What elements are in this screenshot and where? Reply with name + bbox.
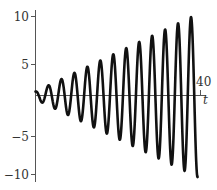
x-axis-label-t: t bbox=[203, 93, 208, 107]
y-tick-label-minus10: −10 bbox=[4, 168, 29, 182]
x-tick-label-40: 40 bbox=[196, 75, 211, 89]
data-series-curve bbox=[36, 17, 198, 177]
y-tick-label-minus5: −5 bbox=[11, 130, 29, 144]
y-tick-label-5: 5 bbox=[21, 58, 29, 72]
y-tick-label-10: 10 bbox=[14, 10, 29, 24]
resonance-line-chart: 10 5 −5 −10 40 t bbox=[0, 0, 217, 190]
